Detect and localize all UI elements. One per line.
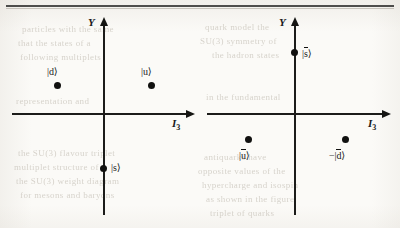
x-axis-line-left xyxy=(12,113,188,115)
y-axis-arrowhead-icon-right xyxy=(291,17,299,26)
x-axis-label-right: I3 xyxy=(368,117,376,132)
point-dot-dbar xyxy=(342,136,349,143)
state-label-dbar-ket-close: ⟩ xyxy=(341,150,345,161)
x-axis-label-left: I3 xyxy=(172,117,180,132)
panel-antiquark-triplet: I3 Y |s⟩ |u⟩ −|d⟩ xyxy=(200,0,400,228)
point-dot-d xyxy=(54,82,61,89)
panel-quark-triplet: I3 Y |d⟩ |u⟩ |s⟩ xyxy=(0,0,200,228)
point-dot-sbar xyxy=(291,49,298,56)
x-axis-arrowhead-icon-right xyxy=(382,110,391,118)
state-label-ubar-ket-close: ⟩ xyxy=(246,150,250,161)
point-dot-u xyxy=(148,82,155,89)
y-axis-arrowhead-icon-left xyxy=(100,17,108,26)
x-axis-arrowhead-icon-left xyxy=(186,110,195,118)
state-label-s: |s⟩ xyxy=(111,162,121,173)
state-label-ubar: |u⟩ xyxy=(239,148,250,161)
x-axis-label-sub-left: 3 xyxy=(176,123,180,132)
state-label-d: |d⟩ xyxy=(47,66,58,77)
point-dot-s xyxy=(100,165,107,172)
state-label-sbar: |s⟩ xyxy=(302,46,312,59)
state-label-u: |u⟩ xyxy=(141,66,152,77)
y-axis-line-left xyxy=(103,26,105,215)
y-axis-label-right: Y xyxy=(279,16,286,28)
point-dot-ubar xyxy=(245,136,252,143)
x-axis-label-sub-right: 3 xyxy=(372,123,376,132)
y-axis-label-left: Y xyxy=(88,16,95,28)
figure-page: particles with the samethat the states o… xyxy=(0,0,400,228)
state-label-dbar: −|d⟩ xyxy=(329,148,345,161)
state-label-sbar-ket-close: ⟩ xyxy=(308,48,312,59)
